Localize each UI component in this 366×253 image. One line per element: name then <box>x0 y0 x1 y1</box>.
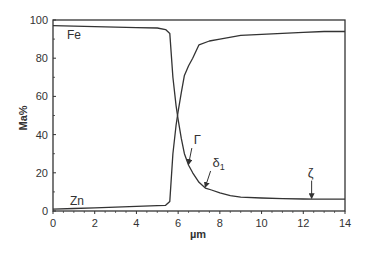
arrow-icon <box>189 148 192 164</box>
y-tick-label: 60 <box>36 90 48 102</box>
phase-label: Γ <box>194 132 201 147</box>
series-line-fe <box>53 26 345 200</box>
x-axis-ticks: 02468101214 <box>50 211 351 229</box>
series-lines <box>53 26 345 209</box>
series-label-zn: Zn <box>70 194 84 208</box>
series-label-fe: Fe <box>67 28 81 42</box>
y-tick-label: 100 <box>30 14 48 26</box>
y-tick-label: 20 <box>36 167 48 179</box>
y-tick-label: 0 <box>42 205 48 217</box>
x-tick-label: 12 <box>297 217 309 229</box>
y-axis-ticks: 020406080100 <box>30 14 56 217</box>
x-tick-label: 2 <box>92 217 98 229</box>
x-axis-label: µm <box>190 228 206 240</box>
phase-label: ζ <box>308 165 314 180</box>
phase-label: δ1 <box>213 155 225 172</box>
y-axis-label: Ma% <box>17 105 29 130</box>
chart: 020406080100 02468101214 Γδ1ζ Ma% µm Fe … <box>0 0 366 253</box>
x-tick-label: 14 <box>339 217 351 229</box>
x-tick-label: 6 <box>175 217 181 229</box>
x-tick-label: 8 <box>217 217 223 229</box>
y-tick-label: 80 <box>36 52 48 64</box>
y-tick-label: 40 <box>36 129 48 141</box>
x-tick-label: 4 <box>133 217 139 229</box>
x-tick-label: 10 <box>255 217 267 229</box>
x-tick-label: 0 <box>50 217 56 229</box>
arrow-icon <box>205 171 210 187</box>
